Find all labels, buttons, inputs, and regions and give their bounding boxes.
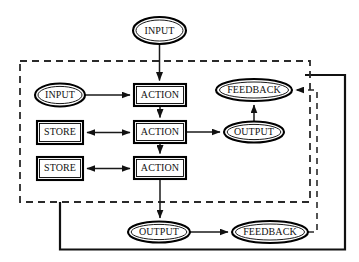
output-bottom-label: OUTPUT bbox=[139, 226, 179, 237]
input-top-label: INPUT bbox=[145, 25, 175, 36]
node-action-2[interactable]: ACTION bbox=[134, 121, 186, 143]
node-store-1[interactable]: STORE bbox=[37, 121, 83, 144]
node-feedback-top[interactable]: FEEDBACK bbox=[216, 79, 292, 101]
node-input-left[interactable]: INPUT bbox=[35, 84, 85, 107]
node-input-top[interactable]: INPUT bbox=[133, 17, 186, 44]
action-3-label: ACTION bbox=[141, 162, 179, 173]
feedback-top-label: FEEDBACK bbox=[227, 84, 281, 95]
store-1-label: STORE bbox=[44, 126, 76, 137]
action-2-label: ACTION bbox=[141, 126, 179, 137]
node-feedback-bottom[interactable]: FEEDBACK bbox=[232, 221, 308, 243]
node-output-mid[interactable]: OUTPUT bbox=[224, 122, 284, 143]
outer-loop-path bbox=[60, 75, 345, 250]
output-mid-label: OUTPUT bbox=[234, 126, 274, 137]
node-action-3[interactable]: ACTION bbox=[134, 157, 186, 179]
node-action-1[interactable]: ACTION bbox=[134, 84, 186, 106]
node-output-bottom[interactable]: OUTPUT bbox=[128, 222, 190, 243]
action-1-label: ACTION bbox=[141, 89, 179, 100]
dashed-feedback-path bbox=[296, 90, 317, 232]
dashed-feedback-return bbox=[296, 90, 317, 232]
outer-feedback-loop bbox=[60, 75, 345, 250]
feedback-bottom-label: FEEDBACK bbox=[243, 226, 297, 237]
diagram-canvas: INPUT INPUT ACTION ACTION ACTION bbox=[0, 0, 359, 262]
node-store-2[interactable]: STORE bbox=[37, 157, 83, 180]
input-left-label: INPUT bbox=[45, 89, 75, 100]
store-2-label: STORE bbox=[44, 162, 76, 173]
flow-diagram: INPUT INPUT ACTION ACTION ACTION bbox=[0, 0, 359, 262]
